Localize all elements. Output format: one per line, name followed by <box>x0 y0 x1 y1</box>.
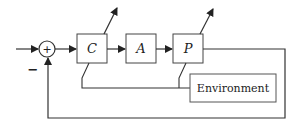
minus-sign: − <box>28 62 39 77</box>
block-c: C <box>77 34 107 63</box>
summing-junction: + <box>39 41 55 57</box>
block-c-label: C <box>87 41 97 56</box>
adjust-arrow-c <box>104 8 117 34</box>
environment-block: Environment <box>190 74 276 102</box>
adjust-arrow-p <box>200 9 213 34</box>
block-a: A <box>126 34 156 63</box>
block-a-label: A <box>135 41 145 56</box>
environment-link-c <box>82 63 190 88</box>
environment-link-p <box>179 63 186 88</box>
plus-sign: + <box>42 43 51 56</box>
block-p: P <box>173 34 203 63</box>
control-block-diagram: + − C A P Environment <box>0 0 300 128</box>
block-p-label: P <box>183 41 193 56</box>
environment-label: Environment <box>197 82 270 95</box>
